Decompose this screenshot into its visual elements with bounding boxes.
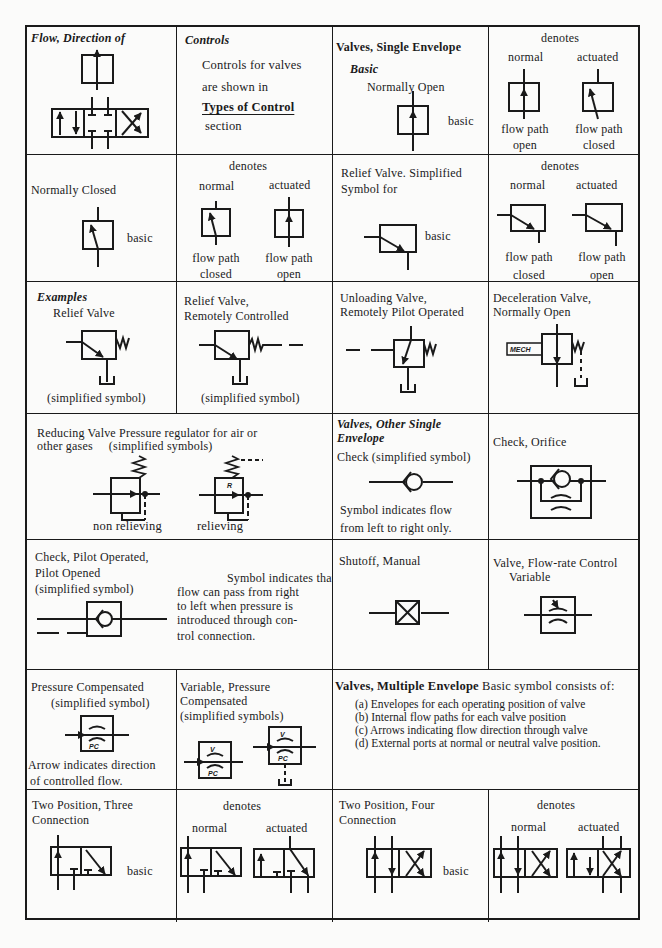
cell-flow-rate: Valve, Flow-rate Control Variable [489,540,638,670]
flow-rate-control-icon [489,540,638,670]
cell-relief-remote: Relief Valve, Remotely Controlled (simpl… [177,282,333,414]
cell-two-pos-three: Two Position, Three Connection basic [27,790,177,922]
cell-relief-simplified: Relief Valve. Simplified Symbol for basi… [333,155,489,282]
types-of-control-link[interactable]: Types of Control [202,99,294,115]
check-orifice-icon [489,414,638,540]
cell-check-orifice: Check, Orifice [489,414,638,540]
svg-text:MECH: MECH [510,346,532,353]
list-item: (a) Envelopes for each operating positio… [355,698,625,711]
variable-pressure-compensated-icon: V PC V PC [177,670,333,790]
caption: closed [565,137,633,153]
cell-tp3-denotes: denotes normal actuated [177,790,333,922]
multiple-envelope-list: (a) Envelopes for each operating positio… [355,698,625,750]
cell-title: Controls [185,32,229,48]
caption: open [255,266,323,282]
cell-no-denotes: denotes normal actuated flow path open f… [489,27,638,155]
relief-valve-simplified-icon [333,155,489,282]
shutoff-manual-icon [333,540,489,670]
caption: flow path [568,249,636,265]
svg-text:PC: PC [208,770,219,777]
unloading-valve-icon [333,282,489,414]
svg-text:PC: PC [278,755,289,762]
cell-flow-direction: Flow, Direction of [27,27,177,155]
caption: flow path [491,121,559,137]
text: are shown in [202,79,268,95]
caption: flow path [182,250,250,266]
caption: flow path [255,250,323,266]
caption: closed [182,266,250,282]
caption: (simplified symbol) [201,390,300,406]
caption: flow path [495,249,563,265]
two-position-three-connection-icon [27,790,177,922]
tp4-denotes-symbols-icon [489,790,638,922]
svg-text:V: V [210,746,216,753]
cell-multiple-envelope: Valves, Multiple Envelope Basic symbol c… [333,670,638,790]
text: section [205,118,242,134]
reducing-valve-icon: R [27,414,333,540]
non-relieving-label: non relieving [93,518,162,534]
cell-check-pilot: Check, Pilot Operated, Pilot Opened (sim… [27,540,333,670]
deceleration-valve-icon: MECH [489,282,638,414]
cell-normally-closed: Normally Closed basic [27,155,177,282]
list-item: (c) Arrows indicating flow direction thr… [355,724,625,737]
cell-reducing-valve: Reducing Valve Pressure regulator for ai… [27,414,333,540]
svg-text:R: R [227,482,232,489]
flow-direction-symbol-icon [27,27,177,155]
cell-relief-denotes: denotes normal actuated flow path closed… [489,155,638,282]
normally-closed-valve-icon [27,155,177,282]
caption: flow path [565,121,633,137]
tp3-denotes-symbols-icon [177,790,333,922]
pilot-check-valve-icon [27,540,333,670]
cell-shutoff-manual: Shutoff, Manual [333,540,489,670]
cell-examples-relief: Examples Relief Valve (simplified symbol… [27,282,177,414]
note: from left to right only. [340,520,452,536]
two-position-four-connection-icon [333,790,489,922]
list-item: (b) Internal flow paths for each valve p… [355,711,625,724]
cell-title: Valves, Multiple Envelope Basic symbol c… [335,678,615,694]
relieving-label: relieving [197,518,243,534]
cell-variable-pc: Variable, Pressure Compensated (simplifi… [177,670,333,790]
cell-unloading: Unloading Valve, Remotely Pilot Operated [333,282,489,414]
cell-tp4-denotes: denotes normal actuated [489,790,638,922]
symbols-table: Flow, Direction of Controls Controls for… [25,25,640,920]
caption: open [568,267,636,282]
svg-text:PC: PC [89,743,100,750]
text: Controls for valves [202,57,302,73]
note: Symbol indicates flow [340,502,452,518]
cell-pressure-comp: Pressure Compensated (simplified symbol)… [27,670,177,790]
cell-other-single: Valves, Other Single Envelope Check (sim… [333,414,489,540]
note: of controlled flow. [30,773,123,789]
cell-nc-denotes: denotes normal actuated flow path closed… [177,155,333,282]
cell-controls: Controls Controls for valves are shown i… [177,27,333,155]
caption: (simplified symbol) [47,390,146,406]
normally-open-valve-icon [333,27,489,155]
note: Arrow indicates direction [28,757,156,773]
list-item: (d) External ports at normal or neutral … [355,737,625,750]
cell-deceleration: Deceleration Valve, Normally Open MECH [489,282,638,414]
caption: closed [495,267,563,282]
cell-two-pos-four: Two Position, Four Connection basic [333,790,489,922]
svg-text:V: V [280,731,286,738]
cell-single-envelope: Valves, Single Envelope Basic Normally O… [333,27,489,155]
caption: open [491,137,559,153]
